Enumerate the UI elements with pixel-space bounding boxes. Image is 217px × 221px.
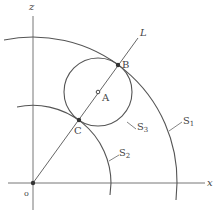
s1-label: S1 [183,115,194,128]
origin-label: o [24,189,29,198]
arc-s2 [17,105,111,195]
s2-label: S2 [119,147,130,160]
s1-leader [169,122,182,131]
point-b-label: B [122,59,129,70]
s3-label: S3 [137,121,148,134]
point-c [77,118,81,122]
x-axis-label: x [207,177,213,188]
s2-leader [109,155,119,161]
origin-point [31,181,35,185]
z-axis-label: z [28,1,35,12]
geometry-diagram: z x o L A B C S1 S2 S3 [0,0,217,221]
diagram-svg: z x o L A B C S1 S2 S3 [0,0,217,221]
line-l-label: L [139,27,147,38]
point-a [96,90,100,94]
point-c-label: C [74,125,82,136]
point-b [116,63,120,67]
point-a-label: A [101,92,110,103]
arc-s1 [4,37,177,200]
s3-leader [127,122,136,129]
